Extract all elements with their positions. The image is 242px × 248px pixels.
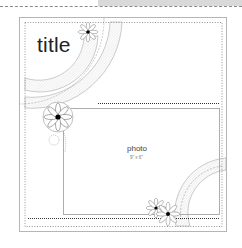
- button-circle: [49, 135, 59, 145]
- photo-placeholder-label: photo: [127, 144, 147, 153]
- string-line: [64, 133, 66, 152]
- bottom-right-arc: [175, 158, 226, 226]
- title-placeholder: title: [37, 33, 71, 57]
- flower-icon: [156, 202, 180, 226]
- photo-size-label: 9" x 6": [130, 155, 143, 160]
- photo-box: [64, 109, 220, 215]
- flower-icon: [43, 102, 73, 132]
- flower-icon: [78, 22, 98, 42]
